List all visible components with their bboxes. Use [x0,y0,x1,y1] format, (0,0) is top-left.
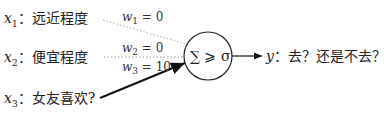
weight-w2-value: = 0 [138,41,163,55]
input-x3: x3：女友喜欢? [4,90,95,112]
input-x1-var: x [4,10,12,26]
weight-w1: w1 = 0 [122,10,163,28]
input-x2-var: x [4,49,12,65]
input-x1-label: ：远近程度 [18,10,88,26]
input-x3-var: x [4,90,12,106]
weight-w2-var: w [122,41,132,55]
output-var: y [266,48,274,64]
weight-w3-var: w [122,60,132,74]
output-text: ：去？还是不去？ [274,48,384,64]
weight-w1-value: = 0 [138,10,163,24]
input-x3-label: ：女友喜欢? [18,90,96,106]
weight-w1-var: w [122,10,132,24]
weight-w3: w3 = 10 [122,60,171,78]
output-label: y：去？还是不去？ [266,48,384,64]
input-x2-label: ：便宜程度 [18,49,88,65]
input-x1: x1：远近程度 [4,10,88,32]
weight-w3-value: = 10 [138,60,171,74]
weight-w2: w2 = 0 [122,41,163,59]
input-x2: x2：便宜程度 [4,49,88,71]
neuron-label: ∑ ⩾ σ [190,48,230,64]
